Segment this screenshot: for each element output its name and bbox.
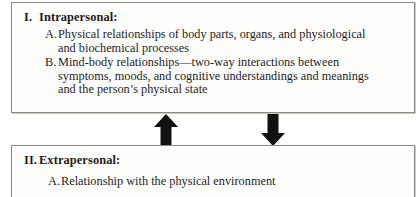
panel-extrapersonal-heading: II.Extrapersonal: — [24, 153, 404, 168]
panel-intrapersonal: I.Intrapersonal: A. Physical relationshi… — [11, 2, 415, 113]
panel-extrapersonal-content: II.Extrapersonal: A. Relationship with t… — [12, 146, 414, 189]
list-item-letter: A. — [45, 28, 58, 42]
list-item-line: Physical relationships of body parts, or… — [58, 28, 404, 42]
panel-extrapersonal-heading-label: Extrapersonal: — [39, 153, 120, 167]
list-item-line: Mind-body relationships—two-way interact… — [58, 56, 404, 70]
panel-intrapersonal-heading: I.Intrapersonal: — [24, 10, 404, 25]
list-item: A. Physical relationships of body parts,… — [24, 28, 404, 55]
panel-extrapersonal-numeral: II. — [24, 153, 39, 168]
list-item-line: and the person’s physical state — [58, 83, 404, 97]
list-item-text: Relationship with the physical environme… — [61, 175, 404, 189]
list-item-line: Relationship with the physical environme… — [61, 175, 404, 189]
panel-intrapersonal-numeral: I. — [24, 10, 39, 25]
list-item-letter: B. — [45, 56, 58, 70]
relationship-diagram: I.Intrapersonal: A. Physical relationshi… — [0, 0, 417, 197]
list-item-line: and biochemical processes — [58, 42, 404, 56]
panel-extrapersonal-list: A. Relationship with the physical enviro… — [24, 175, 404, 189]
upward-influence-arrow — [153, 114, 179, 146]
list-item-letter: A. — [48, 175, 61, 189]
downward-influence-arrow — [260, 114, 286, 146]
list-item-text: Mind-body relationships—two-way interact… — [58, 56, 404, 97]
list-item: B. Mind-body relationships—two-way inter… — [24, 56, 404, 97]
list-item: A. Relationship with the physical enviro… — [24, 175, 404, 189]
list-item-text: Physical relationships of body parts, or… — [58, 28, 404, 55]
panel-intrapersonal-list: A. Physical relationships of body parts,… — [24, 28, 404, 97]
panel-extrapersonal: II.Extrapersonal: A. Relationship with t… — [11, 145, 415, 197]
panel-intrapersonal-content: I.Intrapersonal: A. Physical relationshi… — [12, 3, 414, 97]
panel-intrapersonal-heading-label: Intrapersonal: — [39, 10, 118, 24]
list-item-line: symptoms, moods, and cognitive understan… — [58, 70, 404, 84]
